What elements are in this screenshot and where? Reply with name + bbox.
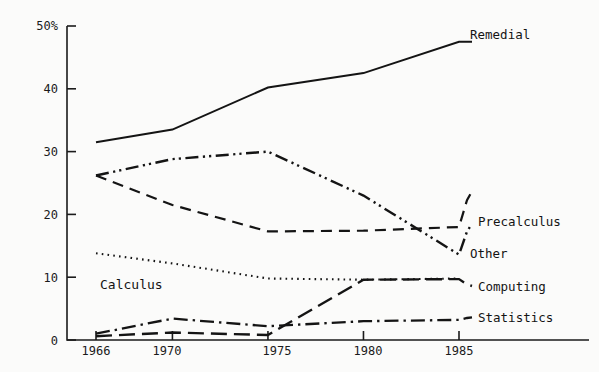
- series-line-calculus: [96, 253, 459, 279]
- series-line-precalculus: [96, 176, 472, 232]
- series-line-remedial: [96, 42, 472, 143]
- series-line-computing: [96, 279, 472, 336]
- chart-plot-area: [0, 0, 599, 372]
- chart-figure: 50% 40 30 20 10 0 1966 1970 1975 1980 19…: [0, 0, 599, 372]
- series-line-statistics: [96, 317, 472, 333]
- axis-lines: [67, 26, 589, 340]
- series-line-other: [96, 152, 472, 255]
